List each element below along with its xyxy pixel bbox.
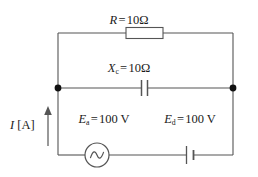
capacitor-unit: Ω (141, 61, 150, 75)
ac-source-value: 100 (99, 112, 118, 126)
capacitor-value: 10 (128, 61, 141, 75)
resistor-symbol (126, 28, 163, 39)
dc-source-var: E (164, 112, 172, 126)
current-bracket-close: ] (31, 118, 35, 132)
circuit-diagram: R=10Ω Xc=10Ω Ea=100V Ed=100V I[A] (0, 0, 258, 177)
current-unit: A (21, 118, 30, 132)
dc-source-equals: = (176, 112, 186, 126)
middle-branch (58, 80, 233, 96)
bottom-branch (58, 143, 233, 167)
dc-source-symbol (187, 146, 194, 164)
current-arrow (44, 106, 52, 146)
right-junction-node (230, 85, 237, 92)
ac-source-equals: = (90, 112, 100, 126)
resistor-label: R=10Ω (110, 14, 149, 27)
dc-source-subscript: d (172, 118, 176, 127)
ac-source-unit: V (118, 112, 130, 126)
current-label: I[A] (10, 119, 35, 132)
resistor-unit: Ω (139, 13, 148, 27)
capacitor-var: X (108, 61, 116, 75)
resistor-value: 10 (127, 13, 140, 27)
dc-source-value: 100 (185, 112, 204, 126)
capacitor-label: Xc=10Ω (108, 62, 150, 76)
top-branch (58, 28, 233, 39)
dc-source-unit: V (204, 112, 216, 126)
ac-source-label: Ea=100V (78, 113, 129, 127)
ac-source-var: E (78, 112, 86, 126)
ac-source-symbol (85, 143, 109, 167)
capacitor-equals: = (119, 61, 129, 75)
dc-source-label: Ed=100V (164, 113, 216, 127)
current-arrow-head (44, 106, 52, 115)
left-junction-node (55, 85, 62, 92)
resistor-var: R (110, 13, 118, 27)
resistor-equals: = (117, 13, 127, 27)
